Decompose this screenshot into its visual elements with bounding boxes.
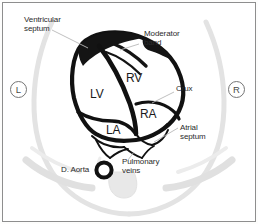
label-atrial-septum: Atrial septum	[180, 124, 206, 142]
label-right-atrium: RA	[140, 108, 156, 121]
label-crux: Crux	[176, 85, 193, 94]
label-descending-aorta: D. Aorta	[61, 166, 89, 175]
label-left-atrium: LA	[106, 124, 120, 137]
label-ventricular-septum: Ventricular septum	[24, 16, 61, 34]
label-moderator-band: Moderator band	[144, 30, 180, 48]
label-right-ventricle: RV	[126, 72, 142, 85]
orientation-marker-right: R	[228, 81, 245, 98]
orientation-marker-right-text: R	[233, 84, 240, 95]
orientation-marker-left-text: L	[16, 84, 21, 95]
label-pulmonary-veins: Pulmonary veins	[122, 158, 159, 176]
fetal-four-chamber-view-figure: Ventricular septum Moderator band Crux A…	[0, 0, 258, 224]
label-left-ventricle: LV	[90, 88, 104, 101]
orientation-marker-left: L	[10, 81, 27, 98]
descending-aorta-structure	[96, 162, 111, 177]
